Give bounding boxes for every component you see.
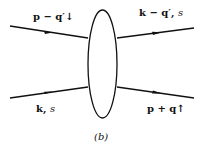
arrow-icon: [152, 91, 162, 94]
label-in-bottom: k, s: [36, 104, 55, 114]
label-momentum: k − q′,: [139, 7, 174, 18]
label-spin: s: [178, 7, 183, 18]
figure-caption: (b): [94, 132, 108, 142]
label-out-top: k − q′, s: [139, 8, 183, 18]
label-momentum: p − q′: [33, 11, 65, 22]
label-spin: s: [50, 103, 55, 114]
diagram-canvas: [0, 0, 203, 152]
line-out-top: [117, 28, 194, 38]
label-momentum: k,: [36, 103, 46, 114]
spin-down-icon: ↓: [65, 11, 73, 22]
arrow-icon: [152, 32, 162, 35]
label-momentum: p + q: [147, 103, 176, 114]
line-out-bottom: [117, 87, 194, 98]
interaction-blob: [88, 10, 117, 118]
line-in-top: [10, 26, 88, 38]
label-in-top: p − q′↓: [33, 12, 73, 22]
label-out-bottom: p + q↑: [147, 104, 185, 114]
line-in-bottom: [10, 87, 88, 98]
spin-up-icon: ↑: [176, 103, 184, 114]
